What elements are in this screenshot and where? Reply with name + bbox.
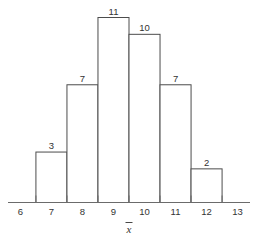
- x-axis-tick-label: 8: [80, 206, 85, 217]
- bar-value-label: 7: [80, 73, 85, 84]
- bar-value-label: 10: [139, 22, 150, 33]
- histogram-chart-svg: 37111072 678910111213 x: [0, 0, 259, 239]
- x-axis-tick-label: 12: [201, 206, 212, 217]
- histogram-bar: [67, 85, 98, 203]
- x-axis-tick-label: 9: [111, 206, 116, 217]
- histogram-bar: [98, 18, 129, 203]
- x-axis-title: x: [126, 223, 132, 235]
- x-axis-title-group: x: [126, 223, 133, 236]
- x-axis-tick-labels-group: 678910111213: [18, 206, 243, 217]
- histogram-bar: [160, 85, 191, 203]
- x-axis-tick-label: 13: [232, 206, 243, 217]
- histogram-bar: [191, 169, 222, 203]
- x-axis-tick-label: 6: [18, 206, 23, 217]
- histogram-bar: [129, 34, 160, 202]
- bar-value-label: 2: [204, 157, 209, 168]
- histogram-bar: [36, 152, 67, 202]
- x-axis-tick-label: 10: [139, 206, 150, 217]
- x-axis-tick-label: 11: [171, 206, 181, 217]
- x-axis-tick-label: 7: [49, 206, 54, 217]
- histogram-figure: 37111072 678910111213 x: [0, 0, 259, 239]
- bar-value-label: 11: [109, 6, 119, 17]
- bar-value-label: 3: [49, 140, 54, 151]
- bar-value-label: 7: [173, 73, 178, 84]
- bars-group: [36, 18, 222, 203]
